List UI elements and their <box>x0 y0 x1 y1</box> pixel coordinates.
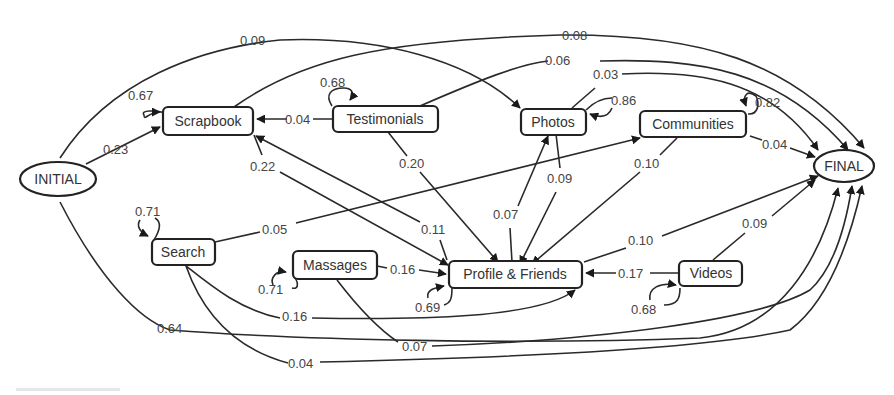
node-label-videos: Videos <box>690 265 733 281</box>
weight-communities-self: 0.82 <box>755 95 780 110</box>
node-search: Search <box>152 239 215 265</box>
node-label-massages: Massages <box>303 257 367 273</box>
node-testimonials: Testimonials <box>333 106 438 132</box>
weight-videos-final: 0.09 <box>742 216 767 231</box>
weight-search-communities: 0.05 <box>262 222 287 237</box>
node-label-final: FINAL <box>824 158 864 174</box>
edge-scrapbook-profile <box>254 135 448 265</box>
node-label-photos: Photos <box>531 114 575 130</box>
weight-initial-photos: 0.09 <box>240 33 265 48</box>
weight-profile-photos: 0.07 <box>493 207 518 222</box>
weight-photos-self: 0.86 <box>611 93 636 108</box>
weight-testimonials-profile: 0.20 <box>399 156 424 171</box>
weight-testimonials-self: 0.68 <box>320 75 345 90</box>
node-label-testimonials: Testimonials <box>346 111 423 127</box>
node-videos: Videos <box>679 261 742 286</box>
edge-profile-photos <box>510 136 548 262</box>
weight-search-profile: 0.16 <box>282 309 307 324</box>
node-photos: Photos <box>521 109 586 135</box>
weight-massages-final: 0.07 <box>402 339 427 354</box>
edge-photos-self <box>586 98 612 116</box>
weight-search-final: 0.04 <box>288 356 313 371</box>
edge-testimonials-self <box>329 88 353 106</box>
weight-videos-profile: 0.17 <box>618 266 643 281</box>
node-scrapbook: Scrapbook <box>163 107 253 135</box>
weight-massages-self: 0.71 <box>258 282 283 297</box>
weight-testimonials-scrapbook: 0.04 <box>285 112 310 127</box>
edge-labels: 0.23 0.09 0.64 0.67 0.22 0.08 0.68 0.04 … <box>103 28 787 371</box>
node-communities: Communities <box>640 111 746 137</box>
weight-scrapbook-profile: 0.22 <box>250 159 275 174</box>
weight-videos-self: 0.68 <box>631 302 656 317</box>
weight-search-self: 0.71 <box>135 204 160 219</box>
edge-profile-scrapbook <box>256 136 447 260</box>
weight-profile-scrapbook: 0.11 <box>421 222 445 237</box>
weight-initial-final: 0.64 <box>157 321 182 336</box>
node-label-profile-friends: Profile & Friends <box>463 266 566 282</box>
node-label-scrapbook: Scrapbook <box>175 113 243 129</box>
weight-photos-final: 0.03 <box>593 67 618 82</box>
weight-massages-profile: 0.16 <box>390 262 415 277</box>
weight-initial-scrapbook: 0.23 <box>103 142 128 157</box>
node-label-initial: INITIAL <box>34 171 82 187</box>
node-initial: INITIAL <box>20 162 96 196</box>
weight-communities-final: 0.04 <box>762 137 787 152</box>
markov-chain-diagram: 0.23 0.09 0.64 0.67 0.22 0.08 0.68 0.04 … <box>0 0 894 395</box>
weight-photos-profile: 0.09 <box>547 171 572 186</box>
faint-caption-fragment <box>16 388 120 391</box>
node-final: FINAL <box>814 150 874 182</box>
weight-scrapbook-self: 0.67 <box>128 88 153 103</box>
node-massages: Massages <box>293 251 377 279</box>
node-label-search: Search <box>161 244 205 260</box>
weight-profile-self: 0.69 <box>415 300 440 315</box>
edge-search-self <box>138 218 159 240</box>
weight-testimonials-final: 0.06 <box>545 53 570 68</box>
weight-scrapbook-final: 0.08 <box>562 28 587 43</box>
weight-profile-final: 0.10 <box>628 233 653 248</box>
weight-communities-profile: 0.10 <box>634 156 659 171</box>
node-label-communities: Communities <box>652 116 734 132</box>
node-profile-friends: Profile & Friends <box>449 261 582 288</box>
